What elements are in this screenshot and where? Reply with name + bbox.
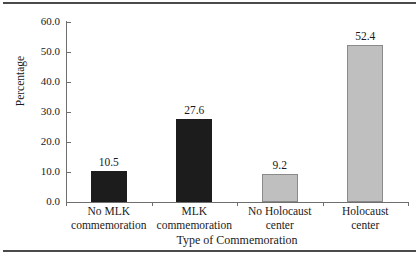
x-category-label-line1: Holocaust — [305, 205, 419, 219]
bar-value-label: 9.2 — [250, 159, 310, 171]
bar-value-label: 10.5 — [79, 156, 139, 168]
bar — [176, 119, 212, 202]
bar — [262, 174, 298, 202]
bar-value-label: 52.4 — [335, 30, 395, 42]
y-tick-label: 50.0 — [20, 46, 60, 57]
x-axis-title: Type of Commemoration — [66, 233, 408, 248]
bar-chart-figure: Percentage 0.010.020.030.040.050.060.0 1… — [0, 0, 419, 264]
x-category-label: Holocaustcenter — [305, 205, 419, 232]
y-tick-label: 10.0 — [20, 166, 60, 177]
top-divider-rule — [3, 2, 416, 4]
y-tick-label: 40.0 — [20, 76, 60, 87]
bar — [91, 171, 127, 203]
plot-area: 10.527.69.252.4 — [66, 22, 408, 202]
bar-value-label: 27.6 — [164, 104, 224, 116]
x-category-label-line2: center — [305, 219, 419, 233]
y-tick-label: 60.0 — [20, 16, 60, 27]
y-tick-label: 30.0 — [20, 106, 60, 117]
bar — [347, 45, 383, 202]
bottom-divider-rule — [3, 250, 416, 252]
y-tick-label: 20.0 — [20, 136, 60, 147]
